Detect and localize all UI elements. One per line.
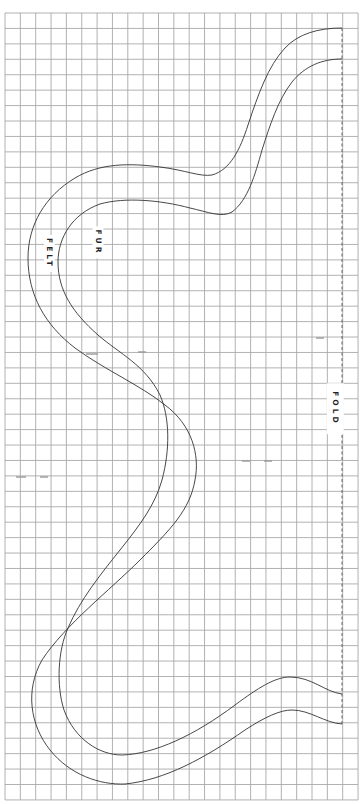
pattern-diagram: [0, 0, 361, 804]
fur-outline: [58, 59, 342, 755]
scan-marks: [16, 338, 324, 477]
fur-label: FUR: [93, 227, 104, 259]
fold-label: FOLD: [327, 383, 344, 434]
felt-label: FELT: [44, 235, 55, 272]
felt-outline: [28, 28, 342, 784]
grid: [5, 13, 358, 800]
